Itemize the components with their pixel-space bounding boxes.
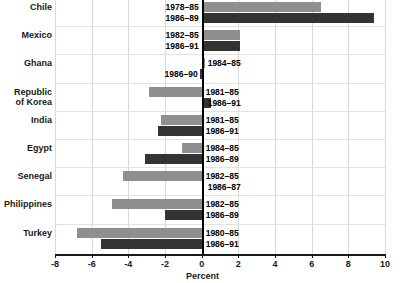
bar-period-label: 1986–90: [165, 69, 198, 79]
bar-period-label: 1984–85: [206, 143, 239, 153]
bar-period-label: 1982–85: [166, 30, 199, 40]
x-tick: [202, 254, 203, 258]
x-tick: [312, 254, 313, 258]
x-axis-line: [55, 254, 386, 256]
bar-period-label: 1980–85: [206, 228, 239, 238]
bar: [145, 154, 202, 164]
bar-period-label: 1986–89: [206, 154, 239, 164]
bar-period-label: 1986–89: [166, 13, 199, 23]
gridline: [385, 0, 386, 254]
x-tick: [238, 254, 239, 258]
row-separator: [55, 83, 385, 84]
x-tick-label: 8: [346, 259, 351, 269]
category-label-ghana: Ghana: [0, 58, 52, 68]
bar-period-label: 1984–85: [208, 58, 241, 68]
bar: [165, 210, 202, 220]
x-tick-label: 10: [380, 259, 390, 269]
category-label-turkey: Turkey: [0, 228, 52, 238]
x-tick-label: -6: [88, 259, 96, 269]
x-tick-label: 4: [272, 259, 277, 269]
row-separator: [55, 224, 385, 225]
category-label-chile: Chile: [0, 2, 52, 12]
row-separator: [55, 26, 385, 27]
gridline: [128, 0, 129, 254]
x-tick-label: 0: [199, 259, 204, 269]
x-tick: [92, 254, 93, 258]
x-tick-label: 6: [309, 259, 314, 269]
bar-period-label: 1978–85: [166, 2, 199, 12]
gridline: [348, 0, 349, 254]
bar: [182, 143, 202, 153]
row-separator: [55, 54, 385, 55]
bar-period-label: 1986–91: [166, 41, 199, 51]
category-label-mexico: Mexico: [0, 30, 52, 40]
category-label-senegal: Senegal: [0, 171, 52, 181]
bar-period-label: 1986–91: [208, 98, 241, 108]
bar-period-label: 1986–89: [206, 210, 239, 220]
category-label-philippines: Philippines: [0, 199, 52, 209]
x-tick: [348, 254, 349, 258]
bar: [112, 199, 202, 209]
row-separator: [55, 111, 385, 112]
plot-area: 1978–851986–891982–851986–911984–851986–…: [55, 0, 385, 254]
gridline: [275, 0, 276, 254]
bar-period-label: 1981–85: [206, 87, 239, 97]
x-tick: [128, 254, 129, 258]
x-tick-label: -2: [161, 259, 169, 269]
bar: [202, 13, 374, 23]
bar-period-label: 1986–91: [206, 239, 239, 249]
row-separator: [55, 139, 385, 140]
gridline: [312, 0, 313, 254]
row-separator: [55, 167, 385, 168]
bar: [161, 115, 201, 125]
bar: [101, 239, 202, 249]
bar-period-label: 1986–91: [206, 126, 239, 136]
x-tick: [385, 254, 386, 258]
bar-period-label: 1982–85: [206, 171, 239, 181]
row-separator: [55, 195, 385, 196]
bar-period-label: 1986–87: [208, 182, 241, 192]
x-axis-title: Percent: [0, 271, 405, 281]
bar: [123, 171, 202, 181]
category-label-republic-of-korea: Republicof Korea: [0, 87, 52, 107]
bar: [149, 87, 202, 97]
bar-chart: 1978–851986–891982–851986–911984–851986–…: [0, 0, 405, 283]
bar: [202, 30, 241, 40]
bar: [202, 41, 241, 51]
x-tick: [165, 254, 166, 258]
bar: [158, 126, 202, 136]
bar-period-label: 1982–85: [206, 199, 239, 209]
zero-line: [202, 0, 204, 254]
category-label-india: India: [0, 115, 52, 125]
x-tick: [55, 254, 56, 258]
x-tick: [275, 254, 276, 258]
x-tick-label: -4: [124, 259, 132, 269]
bar: [77, 228, 202, 238]
x-tick-label: -8: [51, 259, 59, 269]
gridline: [55, 0, 56, 254]
x-tick-label: 2: [236, 259, 241, 269]
bar: [202, 2, 321, 12]
bar-period-label: 1981–85: [206, 115, 239, 125]
gridline: [92, 0, 93, 254]
category-label-egypt: Egypt: [0, 143, 52, 153]
